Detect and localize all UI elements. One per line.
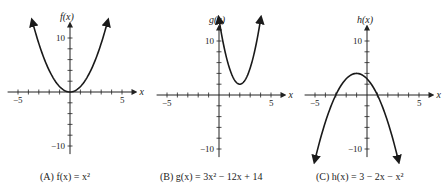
x-tick-label: 5 xyxy=(120,95,125,105)
panel-a: −5510−10xf(x)(A) f(x) = x² xyxy=(8,11,145,184)
y-tick-label: 10 xyxy=(353,36,363,46)
y-tick-label: −10 xyxy=(200,144,215,154)
caption: (A) f(x) = x² xyxy=(40,171,90,183)
y-tick-label: −10 xyxy=(51,141,66,151)
y-axis-label: g(x) xyxy=(209,14,226,26)
caption: (B) g(x) = 3x² − 12x + 14 xyxy=(160,171,262,183)
panel-c: −5510−10xh(x)(C) h(x) = 3 − 2x − x² xyxy=(305,14,442,184)
curve xyxy=(219,19,261,84)
y-tick-label: 10 xyxy=(56,33,66,43)
x-axis-label: x xyxy=(436,89,442,100)
caption: (C) h(x) = 3 − 2x − x² xyxy=(316,171,403,183)
figure: −5510−10xf(x)(A) f(x) = x²−5510−10xg(x)(… xyxy=(0,0,446,191)
panel-b: −5510−10xg(x)(B) g(x) = 3x² − 12x + 14 xyxy=(157,14,294,184)
y-tick-label: 10 xyxy=(205,36,215,46)
x-tick-label: 5 xyxy=(269,98,274,108)
y-axis-label: h(x) xyxy=(357,14,374,26)
x-axis-label: x xyxy=(139,86,145,97)
y-tick-label: −10 xyxy=(348,144,363,154)
x-axis-label: x xyxy=(288,89,294,100)
x-tick-label: −5 xyxy=(310,98,320,108)
x-tick-label: −5 xyxy=(13,95,23,105)
x-tick-label: −5 xyxy=(162,98,172,108)
y-axis-label: f(x) xyxy=(60,11,75,23)
x-tick-label: 5 xyxy=(417,98,422,108)
